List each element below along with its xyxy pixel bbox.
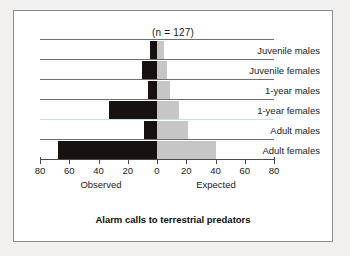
x-axis-tick-label: 80 xyxy=(25,165,55,176)
bar-expected xyxy=(157,81,170,99)
category-label: Adult females xyxy=(190,145,320,156)
plot-area xyxy=(40,39,274,159)
axis-label-observed: Observed xyxy=(66,179,136,190)
x-axis-tick-label: 60 xyxy=(230,165,260,176)
x-axis-tick xyxy=(274,157,275,164)
figure-background: (n = 127) Observed Expected Alarm calls … xyxy=(0,0,350,256)
x-axis-tick xyxy=(245,159,246,164)
bar-observed xyxy=(148,81,157,99)
sample-size-annotation: (n = 127) xyxy=(14,27,332,38)
bar-expected xyxy=(157,41,164,59)
x-axis-tick-label: 0 xyxy=(142,165,172,176)
x-axis-tick-label: 60 xyxy=(54,165,84,176)
category-label: Juvenile males xyxy=(190,45,320,56)
bar-observed xyxy=(109,101,157,119)
bar-expected xyxy=(157,121,188,139)
bar-expected xyxy=(157,101,179,119)
x-axis-tick xyxy=(40,157,41,164)
x-axis-tick-label: 40 xyxy=(201,165,231,176)
x-axis-tick-label: 20 xyxy=(113,165,143,176)
x-axis-tick-label: 20 xyxy=(171,165,201,176)
bar-expected xyxy=(157,61,167,79)
bar-observed xyxy=(144,121,157,139)
chart-title: Alarm calls to terrestrial predators xyxy=(14,214,332,225)
axis-label-expected: Expected xyxy=(181,179,251,190)
x-axis-tick xyxy=(186,159,187,164)
x-axis-tick xyxy=(216,159,217,164)
x-axis-tick-label: 80 xyxy=(259,165,289,176)
chart-panel: (n = 127) Observed Expected Alarm calls … xyxy=(13,10,333,242)
category-label: 1-year females xyxy=(190,105,320,116)
bar-observed xyxy=(150,41,157,59)
category-label: Juvenile females xyxy=(190,65,320,76)
x-axis-tick xyxy=(157,159,158,164)
x-axis-tick-label: 40 xyxy=(84,165,114,176)
x-axis-tick xyxy=(69,159,70,164)
category-label: 1-year males xyxy=(190,85,320,96)
x-axis-tick xyxy=(128,159,129,164)
bar-observed xyxy=(58,141,157,159)
x-axis-tick xyxy=(99,159,100,164)
category-label: Adult males xyxy=(190,125,320,136)
bar-observed xyxy=(142,61,157,79)
